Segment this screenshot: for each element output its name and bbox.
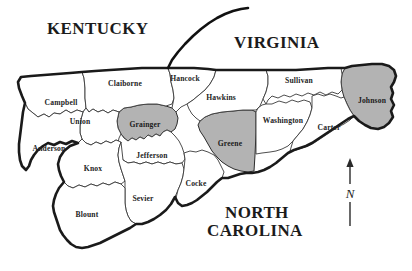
counties-layer bbox=[18, 68, 354, 248]
state-border-layer bbox=[168, 8, 248, 68]
kentucky-virginia-border bbox=[168, 8, 248, 68]
north-arrow-label: N bbox=[338, 186, 362, 202]
map-container: KENTUCKY VIRGINIA NORTH CAROLINA Campbel… bbox=[0, 0, 412, 271]
map-graphic bbox=[0, 0, 412, 271]
county-shape-union[interactable] bbox=[80, 108, 124, 145]
